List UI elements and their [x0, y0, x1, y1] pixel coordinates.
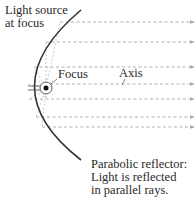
light-source-label: Light source at focus [5, 4, 68, 30]
incident-rays [28, 22, 60, 127]
light-source-icon [28, 78, 53, 98]
caption: Parabolic reflector: Light is reflected … [91, 158, 187, 197]
focus-label: Focus [58, 68, 88, 81]
axis-label: Axis [119, 67, 143, 80]
focus-pointer [51, 79, 57, 84]
